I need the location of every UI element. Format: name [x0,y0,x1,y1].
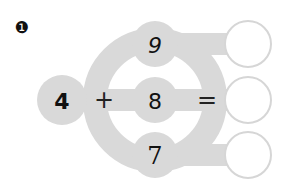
answer-circle-middle[interactable] [225,77,271,123]
left-operand: 4 [54,89,69,114]
operand-bottom: 7 [147,142,162,170]
answer-circles[interactable] [225,21,271,178]
answer-circle-top[interactable] [225,21,271,67]
operand-middle: 8 [148,89,162,114]
math-exercise-diagram: ❶ 4 + 9 8 7 = [0,0,288,196]
answer-circle-bottom[interactable] [225,132,271,178]
exercise-number: ❶ [15,18,29,37]
plus-sign: + [94,86,114,114]
operand-top: 9 [148,33,162,58]
equals-sign: = [197,86,217,114]
